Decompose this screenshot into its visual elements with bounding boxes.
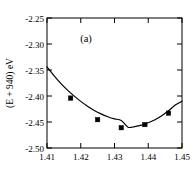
energy-vs-lattice-parameter-chart: -2.25 -2.30 -2.35 -2.40 -2.45 -2.50 1.41…: [0, 0, 195, 181]
figure-panel-a: -2.25 -2.30 -2.35 -2.40 -2.45 -2.50 1.41…: [0, 0, 195, 181]
y-axis-ticks-right: [177, 18, 182, 148]
data-marker: [166, 111, 170, 115]
data-marker: [95, 117, 99, 121]
x-axis-ticks-top: [47, 18, 182, 23]
data-marker: [119, 126, 123, 130]
y-axis-title: (E + 940) eV: [5, 58, 16, 108]
y-tick-label-2: -2.35: [25, 66, 44, 76]
y-tick-label-4: -2.45: [25, 118, 44, 128]
y-axis-ticks: [47, 18, 52, 148]
x-tick-label-0: 1.41: [39, 152, 55, 162]
x-tick-label-1: 1.42: [73, 152, 89, 162]
x-tick-label-3: 1.44: [140, 152, 156, 162]
x-tick-label-2: 1.43: [107, 152, 123, 162]
x-axis-ticks: [47, 143, 182, 148]
panel-label: (a): [80, 33, 92, 45]
y-tick-label-3: -2.40: [25, 92, 44, 102]
data-marker: [68, 96, 72, 100]
y-tick-label-0: -2.25: [25, 14, 44, 24]
x-tick-label-4: 1.45: [174, 152, 190, 162]
plot-frame: [47, 18, 182, 148]
data-marker: [143, 122, 147, 126]
y-tick-label-1: -2.30: [25, 40, 44, 50]
fitted-curve: [47, 67, 182, 128]
data-markers: [68, 96, 170, 130]
